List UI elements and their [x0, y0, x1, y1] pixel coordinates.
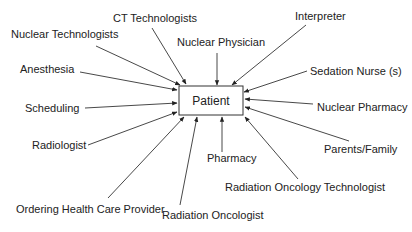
label-ordering-health-care-provider: Ordering Health Care Provider: [16, 203, 165, 215]
label-radiation-oncologist: Radiation Oncologist: [162, 209, 264, 221]
label-scheduling: Scheduling: [25, 102, 79, 114]
arrow-radiation-oncologist: [180, 117, 197, 205]
patient-node: Patient: [179, 86, 243, 115]
arrow-radiologist: [88, 112, 177, 145]
label-nuclear-physician: Nuclear Physician: [177, 36, 265, 48]
arrow-nuclear-pharmacy: [245, 99, 313, 104]
label-nuclear-pharmacy: Nuclear Pharmacy: [317, 101, 408, 113]
arrow-scheduling: [85, 103, 177, 108]
label-anesthesia: Anesthesia: [20, 63, 75, 75]
stakeholder-diagram: CT TechnologistsNuclear TechnologistsNuc…: [0, 0, 412, 232]
label-ct-technologists: CT Technologists: [113, 12, 197, 24]
label-interpreter: Interpreter: [295, 10, 346, 22]
arrow-sedation-nurse: [244, 71, 307, 92]
label-radiation-oncology-technologist: Radiation Oncology Technologist: [225, 181, 385, 193]
label-nuclear-technologists: Nuclear Technologists: [11, 28, 119, 40]
label-sedation-nurse: Sedation Nurse (s): [310, 65, 402, 77]
label-radiologist: Radiologist: [32, 139, 86, 151]
arrow-nuclear-technologists: [96, 46, 180, 85]
arrow-ordering-health-care-provider: [108, 117, 184, 198]
arrow-interpreter: [232, 25, 306, 85]
arrow-radiation-oncology-technologist: [245, 117, 298, 179]
label-pharmacy: Pharmacy: [207, 152, 257, 164]
arrow-anesthesia: [80, 72, 177, 90]
patient-label: Patient: [192, 94, 230, 108]
label-parents-family: Parents/Family: [324, 143, 398, 155]
